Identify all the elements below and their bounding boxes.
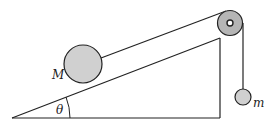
incline-pulley-diagram: θ M m	[0, 0, 270, 125]
angle-label: θ	[56, 103, 64, 117]
incline-slope	[12, 38, 220, 118]
big-mass-ball	[64, 45, 102, 83]
incline-wedge	[12, 38, 220, 118]
incline-string	[101, 11, 226, 58]
pulley-axle	[227, 20, 233, 26]
small-mass-ball	[235, 89, 251, 105]
small-mass-label: m	[253, 96, 264, 110]
big-mass-label: M	[51, 68, 65, 82]
angle-arc	[66, 97, 70, 118]
pulley	[218, 11, 243, 36]
